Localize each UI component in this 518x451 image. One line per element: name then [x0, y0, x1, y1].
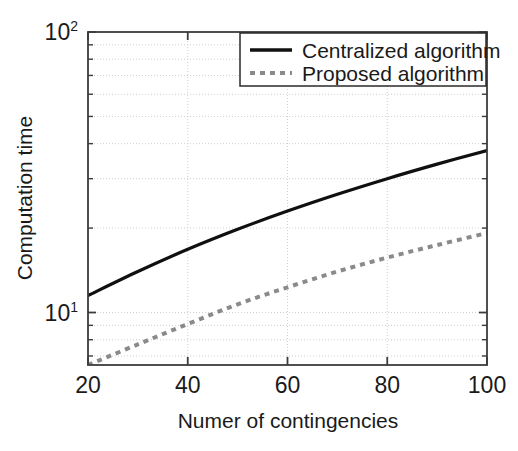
y-bottom-base: 10 [45, 300, 71, 326]
y-top-exponent: 2 [70, 18, 78, 34]
x-axis-tick-label: 60 [275, 372, 301, 398]
x-axis-tick-labels: 20406080100 [75, 372, 506, 398]
legend-label-centralized: Centralized algorithm [302, 39, 500, 62]
y-axis-tick-label-bottom: 101 [45, 299, 79, 326]
y-axis-title: Computation time [13, 116, 36, 281]
x-axis-title: Numer of contingencies [178, 409, 399, 432]
chart-figure: 20406080100 102 101 Numer of contingenci… [0, 0, 518, 451]
computation-time-log-plot: 20406080100 102 101 Numer of contingenci… [0, 0, 518, 451]
y-top-base: 10 [45, 19, 71, 45]
x-axis-tick-label: 40 [175, 372, 201, 398]
legend-label-proposed: Proposed algorithm [302, 62, 484, 85]
legend[interactable]: Centralized algorithm Proposed algorithm [240, 33, 500, 86]
y-bottom-exponent: 1 [70, 299, 78, 315]
x-axis-tick-label: 100 [468, 372, 506, 398]
y-axis-tick-label-top: 102 [45, 18, 79, 45]
x-axis-tick-label: 80 [374, 372, 400, 398]
x-axis-tick-label: 20 [75, 372, 101, 398]
